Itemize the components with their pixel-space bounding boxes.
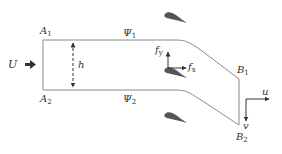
streamline-psi1-label: Ψ1 xyxy=(123,28,136,40)
point-a2-label: A2 xyxy=(40,94,52,106)
point-a1-label: A1 xyxy=(40,26,52,38)
force-axes xyxy=(168,52,186,68)
velocity-v-label: v xyxy=(243,121,249,131)
velocity-u-label: u xyxy=(262,87,268,97)
point-b2-label: B2 xyxy=(236,132,248,144)
airfoil-bottom xyxy=(164,112,187,123)
inflow-arrow-icon xyxy=(25,60,36,69)
streamline-bottom xyxy=(43,90,239,125)
force-fy-label: fy xyxy=(155,45,163,57)
force-fx-label: fx xyxy=(188,62,196,74)
streamline-top xyxy=(43,40,239,79)
stream-tube-diagram: U h A1 A2 B1 B2 Ψ1 Ψ2 fy fx u v xyxy=(0,0,282,154)
point-b1-label: B1 xyxy=(237,65,249,77)
streamline-psi2-label: Ψ2 xyxy=(123,94,136,106)
airfoil-top xyxy=(164,12,187,23)
inflow-label: U xyxy=(8,59,17,70)
height-label: h xyxy=(78,60,84,70)
airfoil-middle xyxy=(164,67,187,78)
velocity-axes xyxy=(246,99,269,121)
